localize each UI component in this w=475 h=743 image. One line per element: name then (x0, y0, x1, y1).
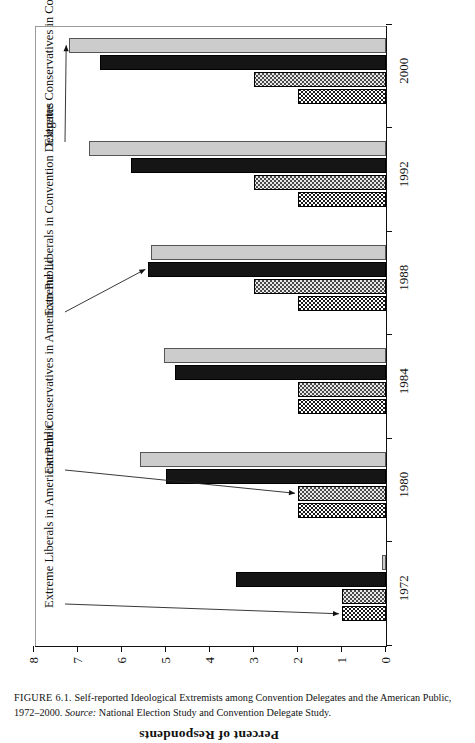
value-tick-label: 0 (377, 657, 395, 664)
chart-annotation-leader (35, 25, 387, 646)
value-tick-label: 2 (289, 657, 307, 664)
bar (130, 158, 385, 173)
category-label: 1972 (396, 548, 412, 628)
value-tick-label: 6 (113, 657, 131, 664)
value-tick-label: 4 (201, 657, 219, 664)
category-label: 1984 (396, 341, 412, 421)
bar (298, 486, 386, 501)
value-tick: 6 (121, 646, 122, 652)
category-label: 1988 (396, 238, 412, 318)
bar (342, 606, 386, 621)
category-tick (386, 542, 392, 543)
bar (254, 175, 386, 190)
bar (236, 572, 386, 587)
caption-figure-number: FIGURE 6.1. (14, 692, 72, 703)
value-tick-label: 7 (69, 657, 87, 664)
bar (150, 245, 385, 260)
bar (298, 399, 386, 414)
category-tick (386, 231, 392, 232)
category-label: 2000 (396, 31, 412, 111)
chart-rotor: Percent of Respondents 012345678 1972198… (25, 5, 425, 695)
value-tick: 2 (297, 646, 298, 652)
caption-source-text: National Election Study and Convention D… (99, 707, 331, 718)
chart-annotation-leader (35, 25, 387, 646)
category-label: 1992 (396, 134, 412, 214)
bar (139, 452, 385, 467)
value-tick: 3 (253, 646, 254, 652)
value-tick-label: 8 (25, 657, 43, 664)
category-tick (386, 645, 392, 646)
category-tick (386, 438, 392, 439)
figure-caption: FIGURE 6.1. Self-reported Ideological Ex… (14, 691, 466, 720)
category-label: 1980 (396, 445, 412, 525)
bar (342, 589, 386, 604)
value-tick-label: 3 (245, 657, 263, 664)
bar (298, 192, 386, 207)
value-tick: 8 (33, 646, 34, 652)
value-tick: 7 (77, 646, 78, 652)
chart-annotation-leader (35, 25, 387, 646)
plot-area: 012345678 197219801984198819922000 Extre… (35, 26, 387, 647)
bar (298, 382, 386, 397)
caption-source-label: Source: (65, 707, 96, 718)
value-tick-label: 1 (333, 657, 351, 664)
bar (298, 503, 386, 518)
bar (298, 296, 386, 311)
bar (100, 55, 386, 70)
plot-outline (35, 26, 386, 646)
bar (298, 89, 386, 104)
value-tick: 5 (165, 646, 166, 652)
value-axis-title: Percent of Respondents (79, 727, 339, 743)
bar (166, 469, 386, 484)
bar (254, 279, 386, 294)
bar (254, 72, 386, 87)
bar (163, 348, 385, 363)
bar (174, 365, 385, 380)
bar (69, 38, 386, 53)
category-tick (386, 128, 392, 129)
chart-area: Percent of Respondents 012345678 1972198… (25, 5, 425, 695)
value-tick: 0 (385, 646, 386, 652)
value-tick: 1 (341, 646, 342, 652)
chart-annotation-leader (35, 25, 387, 646)
value-tick-label: 5 (157, 657, 175, 664)
category-tick (386, 335, 392, 336)
bar (381, 555, 385, 570)
category-tick (386, 24, 392, 25)
chart-annotation-label: Extreme Conservatives in Convention Dele… (42, 0, 56, 146)
bar (89, 141, 386, 156)
value-tick: 4 (209, 646, 210, 652)
bar (148, 262, 386, 277)
